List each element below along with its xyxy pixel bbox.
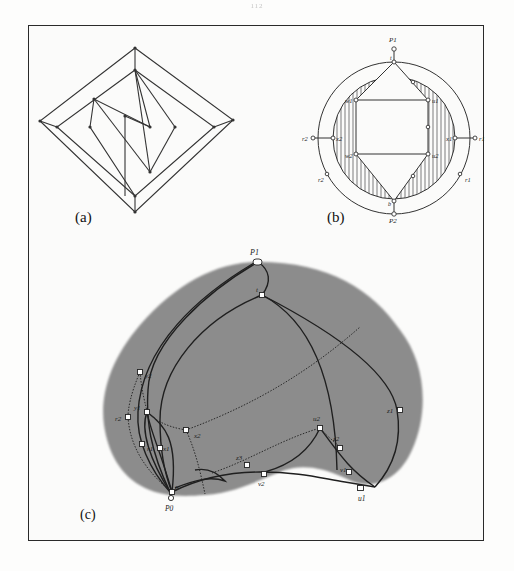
svg-text:w1: w1 (345, 97, 353, 104)
svg-text:P0: P0 (164, 504, 174, 513)
svg-text:P1: P1 (249, 248, 259, 257)
svg-text:y1: y1 (133, 404, 141, 412)
svg-text:P1: P1 (388, 36, 397, 44)
svg-text:r1: r1 (147, 445, 153, 453)
svg-text:x2: x2 (193, 432, 201, 440)
svg-text:z2: z2 (332, 435, 340, 443)
panel-a-graph (40, 48, 233, 212)
svg-text:u1: u1 (358, 494, 366, 503)
document-page: 112 (0, 0, 514, 571)
svg-text:w2: w2 (345, 152, 353, 159)
svg-text:x1: x1 (162, 445, 170, 453)
svg-text:r1: r1 (465, 176, 471, 183)
svg-text:v2: v2 (258, 480, 265, 488)
svg-text:v1: v1 (340, 466, 347, 474)
svg-text:r2: r2 (318, 176, 325, 183)
svg-text:r1: r1 (479, 135, 485, 142)
panel-c-caption: (c) (80, 507, 96, 523)
svg-text:u2: u2 (432, 152, 439, 159)
svg-text:t: t (390, 55, 392, 61)
panel-a-caption: (a) (75, 209, 92, 226)
svg-text:b: b (175, 484, 179, 492)
svg-text:z3: z3 (235, 454, 243, 462)
figure-canvas: (a) P1 (0, 0, 514, 571)
panel-b-graph (313, 49, 475, 214)
svg-text:r2: r2 (115, 415, 122, 423)
svg-text:u1: u1 (432, 97, 439, 104)
svg-text:y2: y2 (144, 372, 152, 380)
svg-text:x2: x2 (335, 135, 343, 142)
svg-text:P2: P2 (388, 217, 397, 225)
svg-text:b: b (388, 201, 391, 207)
svg-text:x1: x1 (445, 135, 452, 142)
panel-b-caption: (b) (327, 209, 345, 226)
svg-text:r2: r2 (302, 135, 309, 142)
svg-text:u2: u2 (313, 415, 321, 423)
svg-text:z1: z1 (386, 407, 393, 415)
